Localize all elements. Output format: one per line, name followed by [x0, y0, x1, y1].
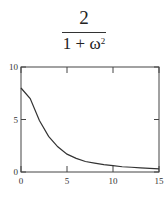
- data-line: [21, 88, 159, 169]
- y-tick-label: 5: [14, 115, 19, 125]
- x-tick-label: 0: [19, 176, 24, 186]
- x-tick-label: 5: [65, 176, 70, 186]
- x-tick-label: 10: [109, 176, 119, 186]
- line-chart: 0510150510: [0, 0, 168, 199]
- y-tick-label: 10: [9, 62, 19, 72]
- y-tick-label: 0: [14, 167, 19, 177]
- x-tick-label: 15: [155, 176, 165, 186]
- plot-frame: [21, 67, 159, 172]
